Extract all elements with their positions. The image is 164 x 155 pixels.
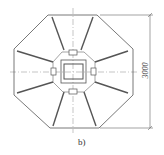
octagon-plan-drawing <box>0 0 164 155</box>
notch <box>91 68 96 75</box>
rib-line <box>95 51 128 62</box>
rib-line <box>52 17 64 50</box>
notch <box>69 50 77 55</box>
radial-ribs <box>17 17 128 126</box>
rib-line <box>17 51 53 62</box>
figure-caption: b) <box>78 137 86 147</box>
rib-line <box>17 82 53 93</box>
outer-square <box>61 60 86 83</box>
centerlines <box>10 8 138 133</box>
outer-octagon-outline <box>14 15 133 128</box>
notch <box>69 89 77 94</box>
notch <box>51 68 56 75</box>
dimension-label: 3000 <box>141 63 150 79</box>
rib-line <box>53 92 64 126</box>
rib-line <box>84 92 96 126</box>
rib-line <box>81 17 93 50</box>
inner-square <box>64 64 83 79</box>
rib-line <box>95 82 128 93</box>
